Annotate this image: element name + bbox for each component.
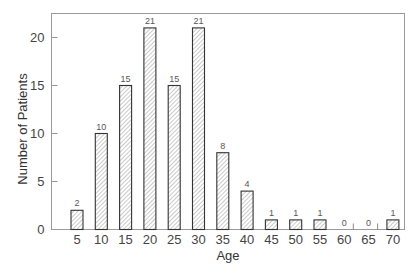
- value-label: 2: [74, 198, 79, 208]
- value-label: 1: [390, 208, 395, 218]
- y-tick-label: 0: [37, 222, 44, 237]
- x-tick-label: 55: [313, 232, 327, 247]
- bar-35: [217, 153, 229, 230]
- value-label: 4: [245, 179, 250, 189]
- y-tick-label: 10: [30, 126, 44, 141]
- value-label: 0: [342, 218, 347, 228]
- x-tick-label: 20: [143, 232, 157, 247]
- value-label: 21: [193, 16, 203, 26]
- x-tick-label: 35: [216, 232, 230, 247]
- y-axis-title: Number of Patients: [15, 73, 30, 185]
- bar-25: [168, 86, 180, 230]
- bar-20: [144, 28, 156, 230]
- y-tick-label: 20: [30, 30, 44, 45]
- value-label: 0: [366, 218, 371, 228]
- x-tick-label: 40: [240, 232, 254, 247]
- value-label: 1: [269, 208, 274, 218]
- bar-70: [387, 220, 399, 230]
- y-axis-ticks: 05101520: [30, 30, 57, 237]
- bar-45: [265, 220, 277, 230]
- bar-50: [290, 220, 302, 230]
- y-tick-label: 15: [30, 78, 44, 93]
- x-tick-label: 10: [94, 232, 108, 247]
- x-tick-label: 60: [337, 232, 351, 247]
- x-tick-label: 45: [264, 232, 278, 247]
- x-tick-label: 15: [118, 232, 132, 247]
- x-tick-label: 25: [167, 232, 181, 247]
- x-tick-label: 30: [191, 232, 205, 247]
- value-label: 15: [169, 74, 179, 84]
- bar-40: [241, 191, 253, 229]
- bar-15: [120, 86, 132, 230]
- bar-10: [95, 134, 107, 230]
- value-label: 1: [293, 208, 298, 218]
- x-tick-label: 50: [288, 232, 302, 247]
- bar-30: [193, 28, 205, 230]
- y-tick-label: 5: [37, 174, 44, 189]
- x-tick-label: 70: [386, 232, 400, 247]
- value-label: 1: [317, 208, 322, 218]
- x-axis-tick-labels: 510152025303540455055606570: [73, 232, 400, 247]
- bar-chart: 05101520 2101521152184111001 51015202530…: [0, 0, 417, 276]
- value-label: 10: [96, 122, 106, 132]
- value-label: 15: [121, 74, 131, 84]
- value-label: 8: [220, 141, 225, 151]
- bar-55: [314, 220, 326, 230]
- value-label: 21: [145, 16, 155, 26]
- x-tick-label: 5: [73, 232, 80, 247]
- x-tick-label: 65: [361, 232, 375, 247]
- bar-5: [71, 210, 83, 229]
- bars: 2101521152184111001: [71, 16, 399, 230]
- x-axis-title: Age: [216, 248, 239, 263]
